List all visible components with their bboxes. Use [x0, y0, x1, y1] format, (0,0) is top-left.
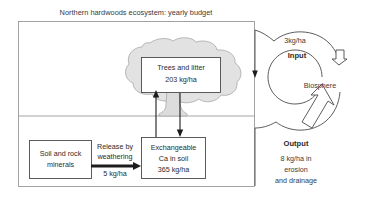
ecosystem-budget-diagram: Northern hardwoods ecosystem: yearly bud…: [0, 0, 369, 201]
minerals-box-line1: Soil and rock: [40, 149, 82, 158]
exchangeable-box-line3: 365 kg/ha: [158, 165, 190, 174]
input-arrow-head-icon: [332, 50, 347, 65]
weathering-value: 5 kg/ha: [103, 169, 127, 178]
output-line2: erosion: [284, 165, 308, 174]
trees-box-line1: Trees and litter: [157, 63, 205, 72]
weathering-label-line1: Release by: [97, 142, 133, 151]
trees-box-line2: 203 kg/ha: [165, 75, 197, 84]
exchangeable-box-line1: Exchangeable: [151, 143, 197, 152]
diagram-canvas: Northern hardwoods ecosystem: yearly bud…: [0, 0, 369, 201]
input-entry-arrow-head-icon: [252, 71, 258, 79]
exchangeable-box-line2: Ca in soil: [159, 154, 189, 163]
diagram-title: Northern hardwoods ecosystem: yearly bud…: [60, 8, 213, 17]
biosphere-return-arrow-icon: [302, 84, 334, 128]
minerals-box-line2: minerals: [47, 160, 75, 169]
output-arc: [255, 122, 276, 128]
output-line1: 8 kg/ha in: [280, 154, 311, 163]
input-arc: [255, 30, 274, 41]
output-line3: and drainage: [275, 176, 317, 185]
weathering-label-line2: weathering: [96, 152, 132, 161]
input-label: Input: [288, 51, 307, 60]
output-label: Output: [284, 139, 309, 148]
input-value-label: 3kg/ha: [284, 36, 306, 45]
litterfall-arrow-head-icon: [177, 130, 183, 138]
biosphere-label: Biosphere: [304, 81, 336, 90]
